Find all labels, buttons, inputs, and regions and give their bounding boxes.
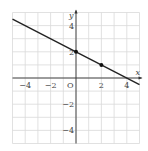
y-axis-label: y: [68, 11, 74, 20]
point-marker: [99, 63, 103, 67]
x-tick-label: 2: [99, 81, 104, 90]
x-tick-label: −2: [45, 81, 57, 90]
y-tick-label: −4: [62, 126, 74, 135]
x-tick-label: −4: [19, 81, 31, 90]
coordinate-plane: xy O−4−22442−2−4: [0, 0, 148, 151]
y-tick-label: 4: [69, 22, 74, 31]
point-marker: [74, 50, 78, 54]
origin-label: O: [67, 81, 74, 90]
y-axis-arrow-icon: [74, 10, 77, 14]
x-tick-label: 4: [124, 81, 129, 90]
y-tick-label: −2: [62, 100, 74, 109]
x-axis-label: x: [136, 68, 141, 77]
